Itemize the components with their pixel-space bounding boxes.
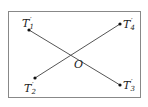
point-t3-dot	[118, 83, 121, 86]
label-t4: T ′ 4	[123, 17, 135, 32]
label-t1: T ′ 1	[22, 16, 34, 31]
point-t2-dot	[33, 76, 36, 79]
point-t4-dot	[118, 22, 121, 25]
label-t4-sub: 4	[130, 24, 135, 32]
label-t3: T ′ 3	[123, 78, 136, 93]
diagram-canvas: T ′ 1 T ′ 2 T ′ 3 T ′ 4 O	[0, 0, 148, 107]
label-center-o: O	[74, 58, 83, 71]
label-t3-sub: 3	[131, 85, 136, 93]
label-t2: T ′ 2	[24, 81, 37, 96]
label-t1-sub: 1	[30, 23, 34, 31]
label-t2-sub: 2	[31, 88, 37, 96]
